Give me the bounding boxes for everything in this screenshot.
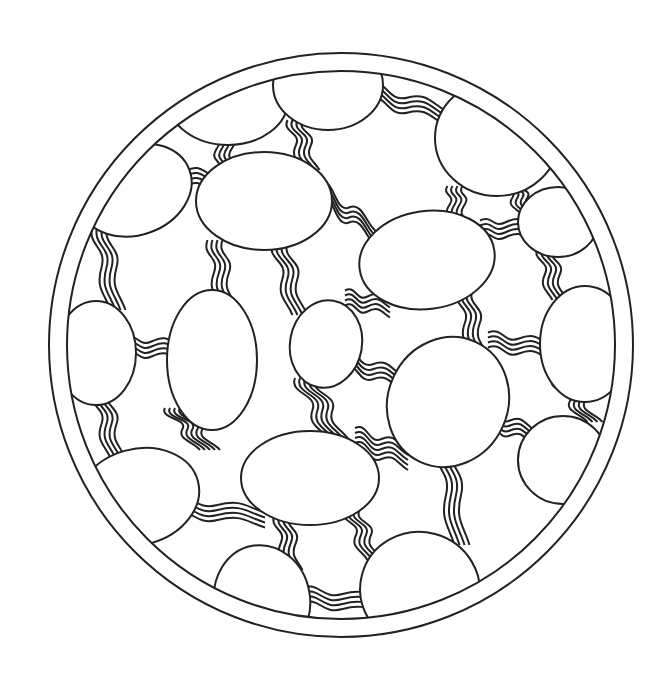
wavy-bundle bbox=[271, 242, 307, 315]
oval-shape bbox=[241, 431, 379, 525]
wavy-line bbox=[96, 225, 115, 310]
oval-shape bbox=[168, 55, 288, 145]
wavy-bundle bbox=[91, 225, 125, 310]
oval-shape bbox=[66, 435, 211, 560]
oval-shape bbox=[65, 128, 205, 252]
mandala-artwork bbox=[0, 0, 672, 681]
oval-shape bbox=[353, 202, 501, 318]
oval-shape bbox=[540, 286, 630, 402]
oval-shape bbox=[167, 290, 257, 430]
oval-shape bbox=[205, 538, 319, 663]
coloring-page-canvas bbox=[0, 0, 672, 681]
oval-shape bbox=[196, 152, 332, 250]
